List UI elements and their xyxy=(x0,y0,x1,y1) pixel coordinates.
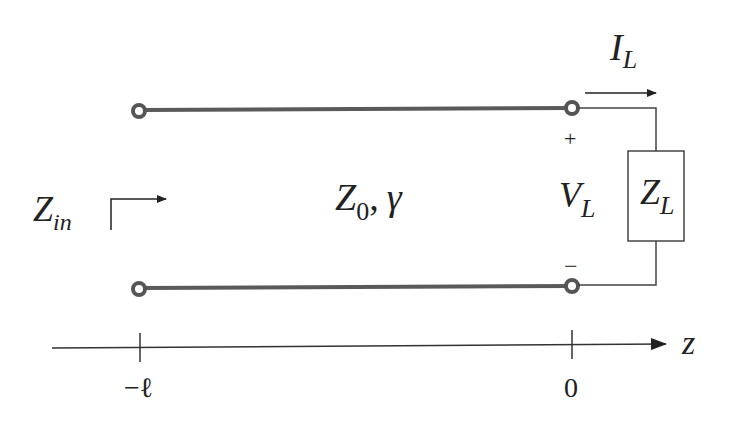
voltage-label: VL xyxy=(559,175,595,223)
load-wire-top xyxy=(578,108,656,151)
tick-label-right: 0 xyxy=(564,372,578,403)
current-label: IL xyxy=(609,26,637,74)
terminal-top-right xyxy=(566,102,578,114)
input-impedance-arrow xyxy=(111,199,166,230)
z-axis xyxy=(52,344,666,348)
terminal-bottom-left xyxy=(133,283,145,295)
transmission-line-diagram: Zin Z0,γ IL + VL − ZL z −ℓ 0 xyxy=(0,0,729,428)
top-conductor xyxy=(140,108,572,110)
terminal-bottom-right xyxy=(566,280,578,292)
minus-sign: − xyxy=(564,253,578,279)
z-axis-label: z xyxy=(681,324,695,361)
z-in-label: Zin xyxy=(33,189,72,235)
bottom-conductor xyxy=(140,286,572,288)
tick-label-left: −ℓ xyxy=(124,372,153,403)
terminal-top-left xyxy=(133,105,145,117)
plus-sign: + xyxy=(564,126,576,151)
line-params-label: Z0,γ xyxy=(335,176,403,226)
load-wire-bottom xyxy=(578,241,656,285)
